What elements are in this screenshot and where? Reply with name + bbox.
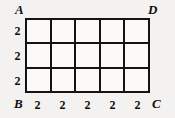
grid-cell [52, 44, 77, 68]
grid-cell [101, 44, 126, 68]
bottom-side-measure-labels: 2 2 2 2 2 [25, 95, 150, 115]
bottom-measure-label: 2 [50, 95, 75, 115]
vertex-label-c: C [152, 97, 161, 110]
bottom-measure-label: 2 [75, 95, 100, 115]
grid-cell [52, 69, 77, 93]
grid-cell [101, 20, 126, 44]
grid-cell [27, 20, 52, 44]
grid-cell [125, 20, 150, 44]
geometry-figure: A D B C 2 2 2 2 2 2 2 2 [0, 0, 175, 118]
left-measure-label: 2 [10, 43, 25, 68]
bottom-measure-label: 2 [100, 95, 125, 115]
left-measure-label: 2 [10, 18, 25, 43]
grid-cell [27, 44, 52, 68]
grid-cell [76, 69, 101, 93]
vertex-label-a: A [15, 3, 24, 16]
rectangle-grid [25, 18, 150, 93]
grid-cell [125, 69, 150, 93]
grid-cell [52, 20, 77, 44]
left-measure-label: 2 [10, 68, 25, 93]
grid-cell [76, 20, 101, 44]
grid-cell [125, 44, 150, 68]
grid-cell [101, 69, 126, 93]
bottom-measure-label: 2 [25, 95, 50, 115]
grid-cell [27, 69, 52, 93]
left-side-measure-labels: 2 2 2 [10, 18, 25, 93]
grid-cell [76, 44, 101, 68]
vertex-label-b: B [14, 97, 23, 110]
bottom-measure-label: 2 [125, 95, 150, 115]
vertex-label-d: D [148, 3, 157, 16]
